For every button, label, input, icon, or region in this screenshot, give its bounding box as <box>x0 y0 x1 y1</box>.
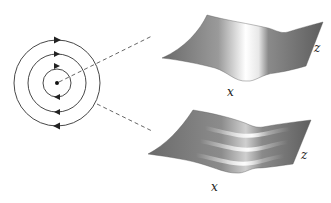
diagram-canvas: x z x z <box>0 0 331 203</box>
arrow-right-icon <box>54 63 60 69</box>
top-surface-sheet <box>162 15 323 81</box>
connector-to-bottom-surface <box>97 104 152 131</box>
dashed-connectors <box>59 36 152 131</box>
arrow-left-icon <box>54 94 60 100</box>
arrow-left-icon <box>54 109 60 115</box>
top-z-label: z <box>313 41 321 55</box>
arrow-right-icon <box>54 37 61 44</box>
top-surface: x z <box>162 15 323 99</box>
bottom-x-label: x <box>211 180 218 194</box>
top-x-label: x <box>227 85 234 99</box>
arrow-right-icon <box>54 51 60 57</box>
center-dot <box>55 81 59 85</box>
bottom-surface: x z <box>148 110 311 194</box>
arrow-left-icon <box>53 123 60 130</box>
bottom-z-label: z <box>300 148 308 162</box>
